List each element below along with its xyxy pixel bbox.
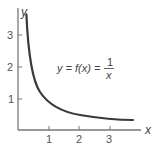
x-axis-label: x [144,123,152,137]
formula-text: y = f(x) = [56,62,101,74]
y-tick-label-2: 2 [7,61,13,73]
formula-numerator: 1 [107,56,113,68]
formula-denominator: x [105,69,112,81]
function-plot: 1 2 3 1 2 3 y x y = f(x) = 1 x [0,0,156,149]
y-tick-label-3: 3 [7,29,13,41]
x-tick-label-3: 3 [106,133,112,145]
x-tick-label-1: 1 [46,133,52,145]
x-tick-label-2: 2 [76,133,82,145]
y-tick-label-1: 1 [8,93,14,105]
